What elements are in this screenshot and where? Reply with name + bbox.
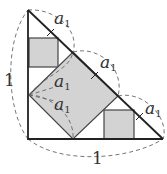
lower-right-square: [104, 110, 134, 139]
label-left-side: 1: [4, 70, 15, 90]
geometry-diagram: a1 a1 a1 a1 a1 1 1: [0, 0, 167, 174]
label-bottom-side: 1: [92, 148, 103, 168]
label-a1-mid-right: a1: [100, 52, 117, 73]
label-a1-top: a1: [54, 8, 71, 29]
upper-left-square: [29, 38, 58, 67]
label-a1-lower-right: a1: [145, 98, 162, 119]
